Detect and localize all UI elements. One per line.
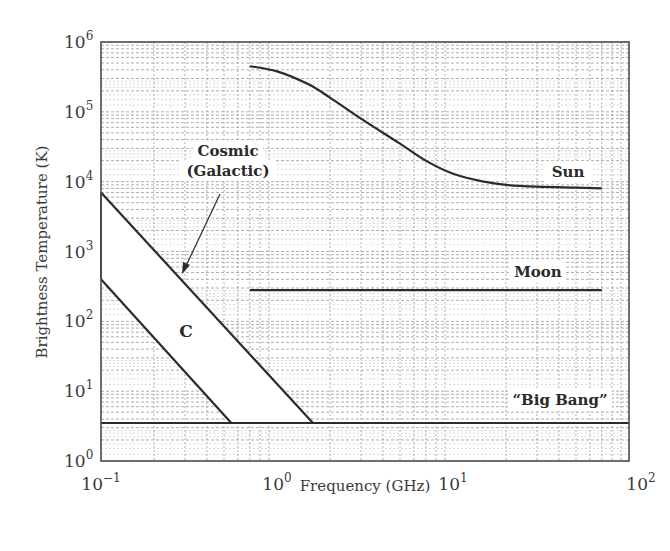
arrow-line	[185, 194, 220, 268]
y-axis-label: Brightness Temperature (K)	[33, 146, 51, 359]
y-tick-label: 105	[64, 99, 93, 122]
annotation-cosmic: Cosmic	[197, 142, 258, 160]
y-tick-label: 102	[64, 308, 93, 331]
x-tick-label: 102	[626, 471, 655, 494]
brightness-temperature-chart: 10−1100101102 100101102103104105106 Freq…	[0, 0, 670, 551]
y-tick-label: 103	[64, 239, 93, 262]
annotation-c-band: C	[179, 321, 193, 341]
x-axis-label: Frequency (GHz)	[300, 477, 431, 495]
annotation-galactic: (Galactic)	[186, 162, 269, 180]
annotation-big-bang: “Big Bang”	[512, 391, 607, 409]
x-tick-label: 10−1	[81, 471, 120, 494]
y-tick-label: 104	[64, 169, 94, 192]
annotation-moon: Moon	[514, 263, 562, 281]
x-tick-label: 100	[262, 471, 291, 494]
annotation-sun: Sun	[552, 163, 585, 181]
y-tick-label: 101	[64, 378, 93, 401]
y-tick-label: 106	[64, 29, 93, 52]
y-axis-ticks: 100101102103104105106	[64, 29, 94, 471]
y-tick-label: 100	[64, 448, 93, 471]
x-tick-label: 101	[438, 471, 467, 494]
